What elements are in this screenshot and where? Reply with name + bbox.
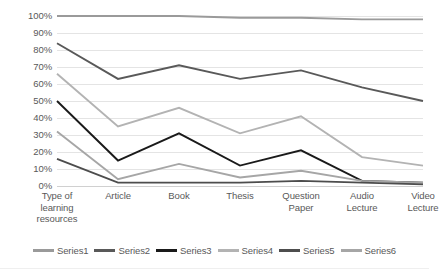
series-line-series3 <box>57 101 423 183</box>
legend-item-series2[interactable]: Series2 <box>94 245 150 256</box>
legend-label: Series3 <box>180 245 212 256</box>
y-axis-tick-label: 80% <box>0 45 52 55</box>
legend-label: Series4 <box>242 245 274 256</box>
x-axis-tick-line: Lecture <box>397 202 443 214</box>
series-line-series4 <box>57 74 423 166</box>
legend-swatch-icon <box>279 249 300 252</box>
y-axis-tick-label: 50% <box>0 96 52 106</box>
x-axis-tick-label: QuestionPaper <box>275 190 327 213</box>
series-lines <box>57 16 423 186</box>
x-axis-tick-line: Audio <box>336 190 388 202</box>
y-axis-tick-label: 40% <box>0 113 52 123</box>
x-axis-tick-line: resources <box>31 213 83 225</box>
x-axis-tick-line: learning <box>31 202 83 214</box>
plot-area <box>57 16 423 186</box>
legend-item-series5[interactable]: Series5 <box>279 245 335 256</box>
x-axis: Type oflearningresourcesArticleBookThesi… <box>57 190 423 238</box>
y-axis-tick-label: 70% <box>0 62 52 72</box>
y-axis-tick-label: 10% <box>0 164 52 174</box>
legend-swatch-icon <box>33 249 54 252</box>
y-axis-tick-label: 90% <box>0 28 52 38</box>
x-axis-tick-line: Video <box>397 190 443 202</box>
legend-divider <box>0 268 429 269</box>
x-axis-tick-line: Book <box>153 190 205 202</box>
series-line-series2 <box>57 43 423 101</box>
legend-label: Series2 <box>118 245 150 256</box>
legend-item-series3[interactable]: Series3 <box>156 245 212 256</box>
x-axis-tick-label: Thesis <box>214 190 266 202</box>
x-axis-tick-line: Question <box>275 190 327 202</box>
x-axis-tick-line: Paper <box>275 202 327 214</box>
legend-label: Series6 <box>365 245 397 256</box>
axis-baseline <box>57 186 423 187</box>
x-axis-tick-label: AudioLecture <box>336 190 388 213</box>
x-axis-tick-line: Thesis <box>214 190 266 202</box>
x-axis-tick-label: Article <box>92 190 144 202</box>
x-axis-tick-label: Book <box>153 190 205 202</box>
legend-swatch-icon <box>156 249 177 252</box>
y-axis-tick-label: 100% <box>0 11 52 21</box>
y-axis-tick-label: 60% <box>0 79 52 89</box>
y-axis-tick-label: 20% <box>0 147 52 157</box>
legend-label: Series5 <box>303 245 335 256</box>
chart-legend: Series1Series2Series3Series4Series5Serie… <box>0 245 429 256</box>
series-line-series1 <box>57 16 423 19</box>
x-axis-tick-line: Lecture <box>336 202 388 214</box>
legend-swatch-icon <box>218 249 239 252</box>
y-axis-tick-label: 30% <box>0 130 52 140</box>
x-axis-tick-label: VideoLecture <box>397 190 443 213</box>
x-axis-tick-line: Type of <box>31 190 83 202</box>
x-axis-tick-label: Type oflearningresources <box>31 190 83 225</box>
legend-item-series1[interactable]: Series1 <box>33 245 89 256</box>
legend-swatch-icon <box>94 249 115 252</box>
x-axis-tick-line: Article <box>92 190 144 202</box>
legend-item-series4[interactable]: Series4 <box>218 245 274 256</box>
legend-swatch-icon <box>341 249 362 252</box>
legend-item-series6[interactable]: Series6 <box>341 245 397 256</box>
legend-label: Series1 <box>57 245 89 256</box>
y-axis: 0%10%20%30%40%50%60%70%80%90%100% <box>0 0 52 196</box>
